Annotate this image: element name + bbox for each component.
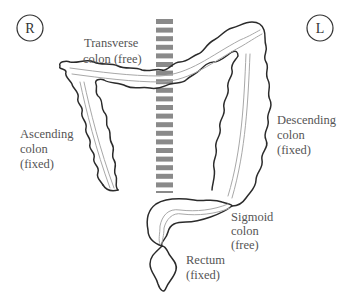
vertebra-segment <box>156 182 173 187</box>
label-ascending-colon: Ascending colon (fixed) <box>20 127 74 171</box>
sigmoid-label-line2: colon <box>231 224 260 238</box>
sigmoid-lumen-line-a <box>159 204 228 244</box>
label-sigmoid-colon: Sigmoid colon (free) <box>231 210 274 252</box>
vertebra-segment <box>156 165 173 170</box>
sigmoid-label-line1: Sigmoid <box>231 210 274 224</box>
descending-label-line2: colon <box>277 128 306 142</box>
vertebra-segment <box>156 45 173 50</box>
right-marker-label: R <box>25 21 35 36</box>
rectum-label-line2: (fixed) <box>186 268 220 282</box>
vertebra-segment <box>156 19 173 24</box>
vertebra-segment <box>156 36 173 41</box>
rectum-label-line1: Rectum <box>186 253 225 267</box>
vertebra-segment <box>156 28 173 33</box>
vertebra-segment <box>156 191 173 193</box>
sigmoid-outer-wall <box>147 199 232 246</box>
ascending-label-line2: colon <box>20 142 49 156</box>
descending-label-line1: Descending <box>277 113 337 127</box>
ascending-label-line3: (fixed) <box>20 157 54 171</box>
vertebra-segment <box>156 114 173 119</box>
rectum-outline <box>150 246 176 291</box>
ascending-label-line1: Ascending <box>20 127 74 141</box>
left-side-marker: L <box>307 15 333 41</box>
vertebra-segment <box>156 96 173 101</box>
vertebra-segment <box>156 122 173 127</box>
label-transverse-colon: Transverse colon (free) <box>83 36 142 66</box>
vertebra-segment <box>156 174 173 179</box>
transverse-label-line2: colon (free) <box>83 52 142 66</box>
colon-diagram: R L Transverse colon (free) Ascending <box>0 0 351 299</box>
left-marker-label: L <box>316 21 325 36</box>
vertebra-segment <box>156 53 173 58</box>
vertebra-segment <box>156 105 173 110</box>
sigmoid-colon <box>147 199 232 246</box>
label-rectum: Rectum (fixed) <box>186 253 225 282</box>
vertebra-segment <box>156 157 173 162</box>
descending-label-line3: (fixed) <box>277 143 311 157</box>
vertebra-segment <box>156 139 173 144</box>
right-side-marker: R <box>17 15 43 41</box>
vertebra-segment <box>156 131 173 136</box>
spine-column <box>156 19 173 193</box>
ascending-lumen-line-a <box>80 82 110 188</box>
sigmoid-label-line3: (free) <box>231 238 259 252</box>
rectum <box>150 246 176 291</box>
vertebra-segment <box>156 148 173 153</box>
label-descending-colon: Descending colon (fixed) <box>277 113 337 157</box>
transverse-label-line1: Transverse <box>84 36 139 50</box>
